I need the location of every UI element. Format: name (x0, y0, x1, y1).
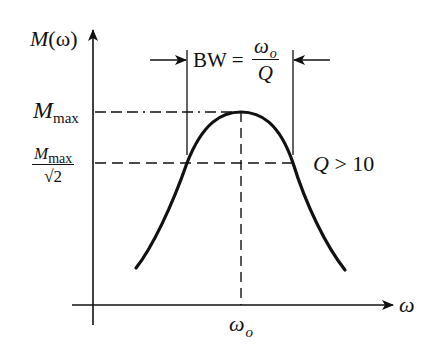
half-power-numerator: M (34, 144, 48, 163)
y-axis-label: M(ω) (30, 28, 77, 50)
max-label-main: M (33, 97, 53, 123)
max-label-sub: max (53, 110, 79, 126)
condition-q: Q (313, 151, 329, 176)
bandwidth-numerator: ω (254, 34, 269, 58)
quality-factor-condition: Q > 10 (313, 153, 374, 175)
condition-rest: > 10 (329, 151, 374, 176)
resonance-diagram: M(ω) BW = ωo Q Mmax Mmax √2 Q > 10 ω ωo (0, 0, 434, 349)
center-frequency-main: ω (229, 311, 245, 336)
half-power-denominator: √2 (44, 165, 62, 185)
max-level-label: Mmax (33, 98, 79, 122)
half-power-numerator-sub: max (48, 151, 72, 166)
bandwidth-formula-fraction: ωo Q (252, 36, 279, 84)
bandwidth-denominator: Q (258, 60, 273, 84)
half-power-level-label: Mmax √2 (32, 145, 74, 185)
y-axis-label-main: M (30, 26, 48, 51)
y-axis-label-arg: (ω) (48, 26, 77, 51)
bandwidth-numerator-sub: o (270, 46, 277, 61)
bandwidth-formula-lhs: BW = (193, 50, 244, 71)
center-frequency-sub: o (246, 324, 254, 340)
center-frequency-label: ωo (229, 313, 253, 335)
x-axis-label: ω (399, 294, 415, 316)
